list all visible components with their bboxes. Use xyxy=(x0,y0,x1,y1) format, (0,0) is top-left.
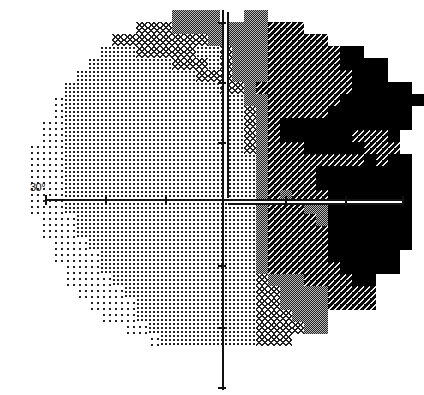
field-cell xyxy=(328,70,340,82)
field-cell xyxy=(292,166,304,178)
field-cell xyxy=(244,298,256,310)
field-cell xyxy=(172,70,184,82)
field-cell xyxy=(328,298,340,310)
field-cell xyxy=(292,322,304,334)
field-cell xyxy=(292,58,304,70)
field-cell xyxy=(376,178,388,190)
field-cell xyxy=(124,274,136,286)
field-cell xyxy=(148,274,160,286)
field-cell xyxy=(316,58,328,70)
field-cell xyxy=(76,274,88,286)
field-cell xyxy=(76,106,88,118)
field-cell xyxy=(76,202,88,214)
field-cell xyxy=(376,262,388,274)
field-cell xyxy=(340,298,352,310)
field-cell xyxy=(388,226,400,238)
field-cell xyxy=(400,214,412,226)
field-cell xyxy=(340,214,352,226)
field-cell xyxy=(280,154,292,166)
field-cell xyxy=(184,310,196,322)
field-cell xyxy=(280,82,292,94)
field-cell xyxy=(112,286,124,298)
field-cell xyxy=(112,262,124,274)
field-cell xyxy=(112,70,124,82)
field-cell xyxy=(316,274,328,286)
field-cell xyxy=(136,118,148,130)
field-cell xyxy=(256,94,268,106)
field-cell xyxy=(148,178,160,190)
field-cell xyxy=(412,94,424,106)
field-cell xyxy=(196,70,208,82)
field-cell xyxy=(340,70,352,82)
field-cell xyxy=(292,118,304,130)
field-cell xyxy=(76,70,88,82)
field-cell xyxy=(136,130,148,142)
field-cell xyxy=(100,262,112,274)
field-cell xyxy=(64,118,76,130)
field-cell xyxy=(256,46,268,58)
field-cell xyxy=(124,94,136,106)
field-cell xyxy=(232,298,244,310)
field-cell xyxy=(280,250,292,262)
horizontal-axis-gap xyxy=(228,201,403,203)
field-cell xyxy=(124,298,136,310)
field-cell xyxy=(232,334,244,346)
field-cell xyxy=(28,202,40,214)
field-cell xyxy=(64,166,76,178)
field-cell xyxy=(364,94,376,106)
field-cell xyxy=(268,142,280,154)
field-cell xyxy=(160,238,172,250)
field-cell xyxy=(304,214,316,226)
field-cell xyxy=(400,238,412,250)
field-cell xyxy=(280,46,292,58)
field-cell xyxy=(136,106,148,118)
field-cell xyxy=(316,214,328,226)
field-cell xyxy=(268,106,280,118)
field-cell xyxy=(76,238,88,250)
field-cell xyxy=(232,58,244,70)
x-tick xyxy=(45,195,47,205)
field-cell xyxy=(268,238,280,250)
field-cell xyxy=(64,262,76,274)
field-cell xyxy=(52,154,64,166)
field-cell xyxy=(256,298,268,310)
field-cell xyxy=(244,226,256,238)
field-cell xyxy=(196,274,208,286)
field-cell xyxy=(88,250,100,262)
field-cell xyxy=(352,58,364,70)
field-cell xyxy=(112,94,124,106)
field-cell xyxy=(28,142,40,154)
field-cell xyxy=(304,298,316,310)
field-cell xyxy=(208,238,220,250)
field-cell xyxy=(172,34,184,46)
field-cell xyxy=(280,70,292,82)
field-cell xyxy=(316,178,328,190)
field-cell xyxy=(124,34,136,46)
field-cell xyxy=(148,106,160,118)
field-cell xyxy=(112,274,124,286)
field-cell xyxy=(328,166,340,178)
field-cell xyxy=(208,10,220,22)
field-cell xyxy=(280,34,292,46)
field-cell xyxy=(112,298,124,310)
x-tick xyxy=(285,196,287,206)
field-cell xyxy=(376,58,388,70)
field-cell xyxy=(268,166,280,178)
field-cell xyxy=(88,82,100,94)
field-cell xyxy=(64,274,76,286)
field-cell xyxy=(172,214,184,226)
field-cell xyxy=(40,154,52,166)
field-cell xyxy=(232,214,244,226)
field-cell xyxy=(136,310,148,322)
field-cell xyxy=(328,46,340,58)
field-cell xyxy=(292,130,304,142)
field-cell xyxy=(256,334,268,346)
field-cell xyxy=(376,142,388,154)
field-cell xyxy=(172,10,184,22)
field-cell xyxy=(148,214,160,226)
field-cell xyxy=(208,178,220,190)
field-cell xyxy=(88,238,100,250)
field-cell xyxy=(184,46,196,58)
field-cell xyxy=(352,82,364,94)
field-cell xyxy=(256,274,268,286)
